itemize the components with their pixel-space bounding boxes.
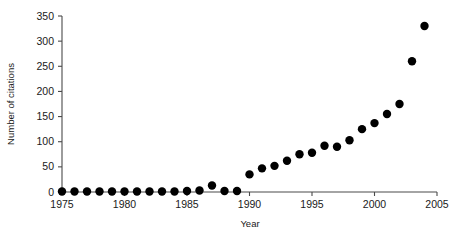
- data-point: [383, 110, 391, 118]
- y-tick-label: 300: [36, 35, 54, 47]
- x-axis-title: Year: [240, 218, 259, 229]
- data-point: [145, 187, 153, 195]
- x-tick-label: 1975: [50, 198, 74, 210]
- data-point: [183, 187, 191, 195]
- data-point: [95, 187, 103, 195]
- data-point: [120, 187, 128, 195]
- x-tick-label: 1985: [175, 198, 199, 210]
- data-point: [208, 181, 216, 189]
- data-point: [258, 164, 266, 172]
- data-point: [133, 187, 141, 195]
- y-axis-title: Number of citations: [5, 63, 16, 145]
- y-tick-label: 250: [36, 60, 54, 72]
- data-point: [58, 187, 66, 195]
- y-tick-label: 50: [42, 160, 54, 172]
- data-point: [83, 187, 91, 195]
- x-tick-label: 1990: [238, 198, 262, 210]
- x-tick-label: 2000: [363, 198, 387, 210]
- y-tick-label: 350: [36, 10, 54, 22]
- data-point: [170, 187, 178, 195]
- data-point: [358, 125, 366, 133]
- y-tick-label: 200: [36, 85, 54, 97]
- data-point: [158, 187, 166, 195]
- data-point: [395, 100, 403, 108]
- data-point: [295, 150, 303, 158]
- data-point: [370, 119, 378, 127]
- y-tick-label: 0: [48, 186, 54, 198]
- data-point: [233, 187, 241, 195]
- x-tick-label: 2005: [425, 198, 449, 210]
- data-point: [70, 187, 78, 195]
- y-axis: 050100150200250300350: [36, 10, 62, 198]
- y-tick-label: 150: [36, 110, 54, 122]
- data-point: [270, 162, 278, 170]
- data-point: [220, 187, 228, 195]
- data-point: [245, 170, 253, 178]
- chart-canvas: 050100150200250300350 197519801985199019…: [0, 0, 452, 237]
- citations-scatter-figure: 050100150200250300350 197519801985199019…: [0, 0, 452, 237]
- data-point: [408, 57, 416, 65]
- data-point: [308, 149, 316, 157]
- data-point: [283, 157, 291, 165]
- data-point: [345, 136, 353, 144]
- data-point: [195, 186, 203, 194]
- x-tick-label: 1995: [300, 198, 324, 210]
- data-point: [108, 187, 116, 195]
- y-tick-label: 100: [36, 135, 54, 147]
- x-tick-label: 1980: [113, 198, 137, 210]
- data-points: [58, 22, 429, 196]
- data-point: [333, 143, 341, 151]
- data-point: [420, 22, 428, 30]
- data-point: [320, 142, 328, 150]
